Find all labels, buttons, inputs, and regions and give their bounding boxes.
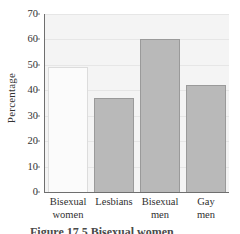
figure-caption: Figure 17.5 Bisexual women bbox=[30, 226, 230, 234]
x-axis-label-line1: Bisexual bbox=[142, 196, 179, 207]
x-axis-label-line1: Bisexual bbox=[50, 196, 87, 207]
x-axis-label-line2: women bbox=[45, 208, 91, 221]
bar-gay-men bbox=[186, 85, 226, 192]
y-axis-tickmark-60 bbox=[36, 39, 40, 40]
x-axis-label-bisexual-men: Bisexualmen bbox=[137, 195, 183, 221]
plot-area bbox=[45, 14, 229, 192]
gridline-60 bbox=[45, 39, 229, 40]
x-axis-line bbox=[44, 192, 229, 193]
bar-bisexual-women bbox=[48, 67, 88, 192]
x-axis-label-bisexual-women: Bisexualwomen bbox=[45, 195, 91, 221]
y-axis-tickmark-70 bbox=[36, 14, 40, 15]
gridline-50 bbox=[45, 65, 229, 66]
y-axis-title-text: Percentage bbox=[5, 73, 17, 123]
y-axis-tickmark-30 bbox=[36, 115, 40, 116]
x-axis-label-line1: Lesbians bbox=[95, 196, 132, 207]
bar-bisexual-men bbox=[140, 39, 180, 192]
y-axis-tickmark-0 bbox=[36, 192, 40, 193]
x-axis-label-line2: men bbox=[137, 208, 183, 221]
x-axis-label-lesbians: Lesbians bbox=[91, 195, 137, 208]
x-axis-label-line1: Gay bbox=[197, 196, 215, 207]
y-axis-tickmark-10 bbox=[36, 166, 40, 167]
y-axis-tickmark-40 bbox=[36, 90, 40, 91]
x-axis-category-labels: BisexualwomenLesbiansBisexualmenGaymen bbox=[45, 195, 229, 227]
x-axis-label-line2: men bbox=[183, 208, 229, 221]
x-axis-label-gay-men: Gaymen bbox=[183, 195, 229, 221]
gridline-70 bbox=[45, 14, 229, 15]
bar-chart-figure: Percentage 010203040506070 Bisexualwomen… bbox=[0, 0, 240, 234]
figure-caption-text: Figure 17.5 Bisexual women bbox=[30, 226, 230, 234]
bar-lesbians bbox=[94, 98, 134, 192]
y-axis-tickmark-50 bbox=[36, 64, 40, 65]
y-axis-tick-labels: 010203040506070 bbox=[18, 0, 40, 200]
y-axis-tickmark-20 bbox=[36, 141, 40, 142]
